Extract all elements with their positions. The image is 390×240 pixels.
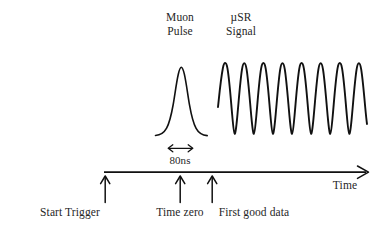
duration-double-arrow: [168, 145, 193, 152]
time-zero-marker: [176, 176, 185, 203]
start-trigger-label: Start Trigger: [40, 206, 100, 220]
duration-label: 80ns: [169, 154, 190, 168]
time-axis: [104, 166, 369, 178]
musr-timing-diagram: Muon Pulse µSR Signal 8: [0, 0, 390, 240]
start-trigger-marker: [101, 176, 110, 203]
time-axis-label: Time: [333, 179, 357, 193]
musr-signal-curve: [218, 63, 367, 134]
diagram-graphics: [0, 0, 390, 240]
first-good-data-label: First good data: [219, 206, 290, 220]
time-zero-label: Time zero: [156, 206, 203, 220]
first-good-data-marker: [208, 176, 217, 203]
muon-pulse-curve: [156, 67, 208, 135]
